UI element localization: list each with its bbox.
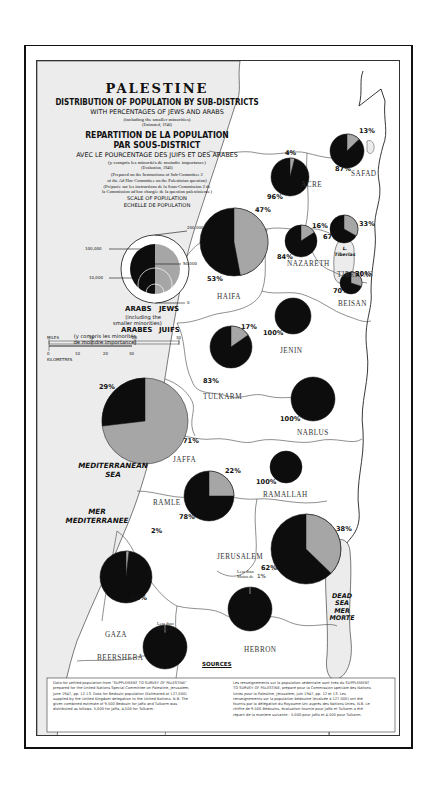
med-en-line2: SEA	[63, 470, 163, 479]
scale-label-100000: 100,000	[85, 246, 102, 251]
pie-tulkarm	[210, 326, 252, 368]
tiberias-arabs-pct: 67%	[323, 233, 339, 241]
map-title-english: DISTRIBUTION OF POPULATION BY SUB-DISTRI…	[54, 97, 260, 107]
map-title-french: REPARTITION DE LA POPULATION PAR SOUS-DI…	[54, 130, 260, 150]
med-fr-line2: MEDITERRANEE	[47, 516, 147, 525]
district-jaffa: JAFFA	[173, 456, 196, 464]
sources-english: Data for settled population from "SUPPLE…	[53, 681, 193, 713]
district-ramallah: RAMALLAH	[263, 491, 308, 499]
scale-miles-tick-10: 10	[89, 335, 94, 340]
beersheba-less-than-note: Less than Moins de	[157, 621, 174, 631]
district-ramle: RAMLE	[153, 499, 181, 507]
safad-arabs-pct: 87%	[335, 165, 351, 173]
med-fr-line1: MER	[47, 507, 147, 516]
pie-hebron	[228, 587, 272, 631]
district-beisan: BEISAN	[338, 300, 367, 308]
legend-juifs: JUIFS	[159, 326, 180, 334]
legend-jews: JEWS	[159, 305, 179, 313]
nazareth-arabs-pct: 84%	[277, 253, 293, 261]
pie-safad	[330, 134, 364, 168]
scale-km-tick-30: 30	[129, 351, 134, 356]
ramle-jews-pct: 22%	[225, 467, 241, 475]
tulkarm-jews-pct: 17%	[241, 323, 257, 331]
district-hebron: HEBRON	[244, 646, 277, 654]
district-haifa: HAIFA	[217, 293, 241, 301]
ramallah-arabs-pct: 100%	[256, 478, 276, 486]
scale-label-200000: 200,000	[187, 225, 204, 230]
haifa-arabs-pct: 53%	[207, 275, 223, 283]
lake-line2: Tiberias	[331, 252, 359, 258]
scale-miles-label: MILES	[47, 335, 59, 340]
acre-arabs-pct: 96%	[267, 193, 283, 201]
district-acre: ACRE	[301, 181, 322, 189]
map-title: PALESTINE	[37, 81, 277, 96]
scale-title-french: ECHELLE DE POPULATION	[37, 202, 277, 209]
scale-km-tick-10: 10	[75, 351, 80, 356]
map-title-french-line2: PAR SOUS-DISTRICT	[54, 140, 260, 150]
map-subtitle-english: WITH PERCENTAGES OF JEWS AND ARABS	[37, 108, 277, 116]
jerusalem-jews-pct: 38%	[336, 525, 352, 533]
scale-title: SCALE OF POPULATION ECHELLE DE POPULATIO…	[37, 195, 277, 208]
scale-label-0: 0	[187, 300, 190, 305]
map-title-french-line1: REPARTITION DE LA POPULATION	[54, 130, 260, 140]
acre-jews-pct: 4%	[285, 149, 296, 157]
map-estimate-french: (Evaluation, 1946)	[37, 165, 277, 170]
ramle-arabs-pct: 78%	[179, 513, 195, 521]
gaza-arabs-pct: 98%	[131, 594, 147, 602]
district-nablus: NABLUS	[297, 429, 329, 437]
jaffa-jews-pct: 71%	[183, 437, 199, 445]
beersheba-jews-pct: 1%	[163, 631, 172, 637]
lake-hula	[367, 140, 374, 153]
district-tulkarm: TULKARM	[203, 393, 242, 401]
nablus-arabs-pct: 100%	[280, 415, 300, 423]
map-panel: PALESTINE DISTRIBUTION OF POPULATION BY …	[36, 60, 400, 736]
med-en-line1: MEDITERRANEAN	[63, 461, 163, 470]
map-subtitle-french: AVEC LE POURCENTAGE DES JUIFS ET DES ARA…	[37, 151, 277, 159]
lake-tiberias-label: L. Tiberias	[331, 246, 359, 257]
mer-mediterranee-label: MER MEDITERRANEE	[47, 507, 147, 525]
tiberias-jews-pct: 33%	[359, 220, 375, 228]
pie-haifa	[200, 208, 268, 276]
title-block: PALESTINE DISTRIBUTION OF POPULATION BY …	[37, 67, 277, 208]
prepared-note: (Prepared on the Instructions of Sub-Com…	[37, 172, 277, 195]
jerusalem-arabs-pct: 62%	[261, 564, 277, 572]
district-safad: SAFAD	[351, 170, 377, 178]
scale-miles-tick-0: 0	[47, 351, 50, 356]
sources-heading: SOURCES	[202, 661, 232, 667]
sources-french: Les renseignements sur la population séd…	[233, 681, 373, 718]
legend-arabs-note: (including the smaller minorities)	[113, 314, 161, 326]
tulkarm-arabs-pct: 83%	[203, 377, 219, 385]
scale-km-label: KILOMETRES	[47, 357, 72, 362]
scale-km-tick-20: 20	[103, 351, 108, 356]
pie-jerusalem	[271, 514, 341, 584]
jaffa-arabs-pct: 29%	[99, 383, 115, 391]
mediterranean-sea-label: MEDITERRANEAN SEA	[63, 461, 163, 479]
legend-arabs: ARABS	[125, 305, 152, 313]
hebron-jews-pct: 1%	[257, 573, 266, 579]
nazareth-jews-pct: 16%	[312, 222, 328, 230]
safad-jews-pct: 13%	[359, 127, 375, 135]
jenin-arabs-pct: 100%	[263, 329, 283, 337]
beisan-arabs-pct: 70%	[333, 287, 349, 295]
scale-miles-tick-20: 20	[132, 335, 137, 340]
dead-sea-label: DEAD SEA MER MORTE	[327, 593, 357, 623]
district-gaza: GAZA	[105, 631, 127, 639]
dead-line4: MORTE	[327, 615, 357, 622]
haifa-jews-pct: 47%	[255, 206, 271, 214]
beisan-jews-pct: 30%	[355, 270, 371, 278]
scale-label-50000: 50,000	[183, 261, 197, 266]
gaza-jews-pct: 2%	[151, 527, 162, 535]
hebron-moins-de: Moins de	[237, 574, 254, 579]
map-estimate-english: (Estimated, 1946)	[37, 122, 277, 127]
scale-label-10000: 10,000	[89, 275, 103, 280]
district-beersheba: BEERSHEBA	[97, 654, 143, 662]
district-nazareth: NAZARETH	[287, 260, 330, 268]
district-jerusalem: JERUSALEM	[217, 553, 263, 561]
hebron-less-than-note: Less than Moins de	[237, 569, 254, 579]
scale-miles-tick-30: 30	[176, 335, 181, 340]
district-jenin: JENIN	[280, 347, 302, 355]
